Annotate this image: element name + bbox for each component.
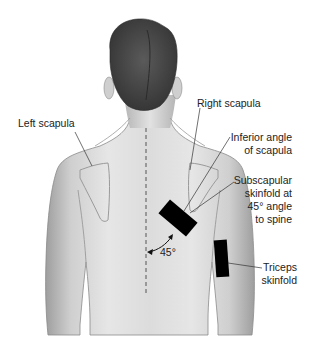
torso-shape <box>46 118 255 335</box>
label-left-scapula: Left scapula <box>18 117 75 130</box>
skinfold-diagram: Left scapula Right scapula Inferior angl… <box>0 0 314 351</box>
label-right-scapula: Right scapula <box>197 97 261 110</box>
label-triceps-skinfold: Triceps skinfold <box>261 261 297 287</box>
label-inferior-angle: Inferior angle of scapula <box>231 131 292 157</box>
left-ear <box>104 77 114 99</box>
label-subscapular-skinfold: Subscapular skinfold at 45° angle to spi… <box>234 174 292 226</box>
hair <box>110 19 177 111</box>
label-45-degree-angle: 45° <box>160 246 176 259</box>
triceps-skinfold-marker <box>214 240 230 278</box>
